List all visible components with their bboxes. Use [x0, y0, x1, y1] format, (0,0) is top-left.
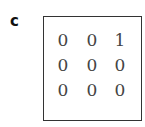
matrix-box: 0 0 1 0 0 0 0 0 0	[43, 16, 142, 121]
matrix-cell: 0	[80, 32, 104, 49]
matrix-cell: 1	[108, 32, 132, 49]
matrix-cell: 0	[51, 32, 75, 49]
matrix-cell: 0	[80, 82, 104, 99]
matrix-cell: 0	[108, 82, 132, 99]
matrix-cell: 0	[51, 57, 75, 74]
matrix-cell: 0	[80, 57, 104, 74]
matrix-cell: 0	[108, 57, 132, 74]
matrix-cell: 0	[51, 82, 75, 99]
panel-label: c	[10, 14, 19, 29]
